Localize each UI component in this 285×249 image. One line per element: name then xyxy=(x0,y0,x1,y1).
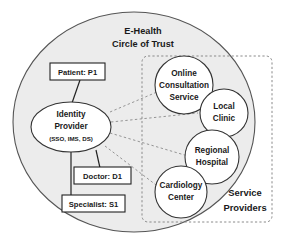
service-online-consultation-line3: Service xyxy=(169,93,199,102)
service-online-consultation-line1: Online xyxy=(171,69,197,78)
service-local-clinic-line1: Local xyxy=(213,102,234,111)
actor-label-doctor: Doctor: D1 xyxy=(83,172,123,181)
actor-label-specialist: Specialist: S1 xyxy=(69,200,119,209)
service-online-consultation-line2: Consultation xyxy=(159,81,209,90)
diagram-title-line1: E-Health xyxy=(124,26,162,36)
ehealth-trust-diagram: Identity Provider (SSO, IMS, DS) Online … xyxy=(0,0,285,249)
identity-provider-line3: (SSO, IMS, DS) xyxy=(49,135,93,142)
service-cardiology-center-line2: Center xyxy=(168,193,195,202)
actor-label-patient: Patient: P1 xyxy=(58,68,98,77)
service-local-clinic-line2: Clinic xyxy=(213,114,236,123)
diagram-canvas: Identity Provider (SSO, IMS, DS) Online … xyxy=(0,0,285,249)
service-providers-label-line1: Service xyxy=(228,187,261,198)
diagram-title-line2: Circle of Trust xyxy=(112,39,174,49)
service-providers-label-line2: Providers xyxy=(223,202,266,213)
identity-provider-line1: Identity xyxy=(56,110,86,119)
service-regional-hospital-line2: Hospital xyxy=(196,158,228,167)
identity-provider-line2: Provider xyxy=(54,122,88,131)
service-cardiology-center-line1: Cardiology xyxy=(160,181,203,190)
service-node-local-clinic[interactable] xyxy=(200,89,248,137)
service-node-cardiology-center[interactable] xyxy=(155,166,207,218)
service-regional-hospital-line1: Regional xyxy=(195,146,230,155)
